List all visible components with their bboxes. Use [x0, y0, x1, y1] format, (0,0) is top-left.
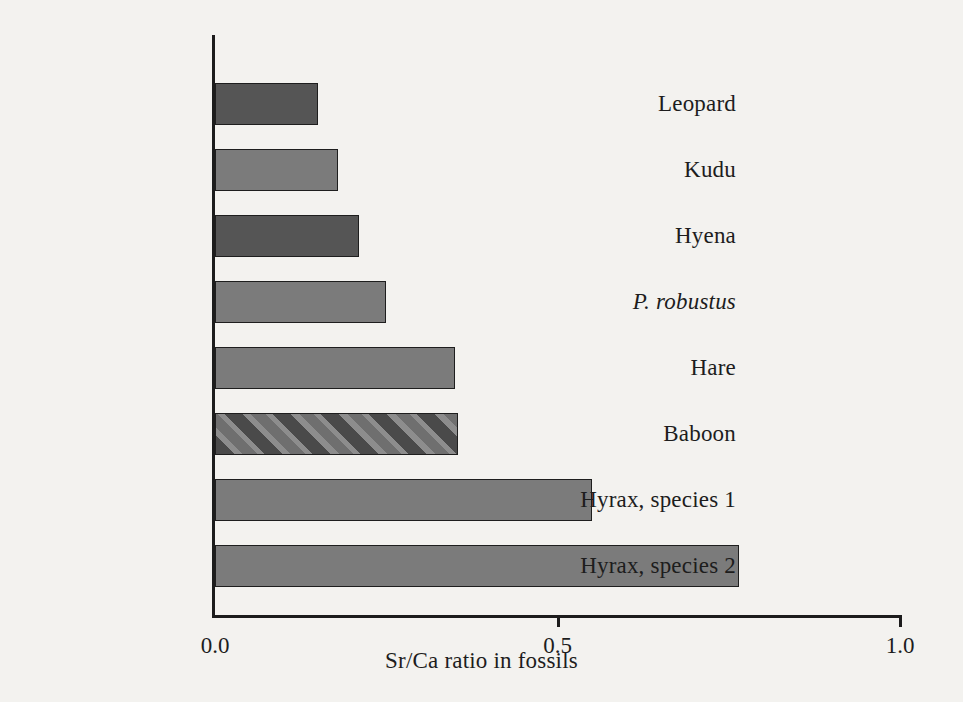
category-label: Hyrax, species 1 — [580, 479, 736, 521]
bar-hare — [215, 347, 455, 389]
bar-leopard — [215, 83, 318, 125]
category-label: Kudu — [684, 149, 736, 191]
plot-area: 0.00.51.0 — [215, 35, 900, 615]
x-axis-title: Sr/Ca ratio in fossils — [0, 648, 963, 674]
bar-kudu — [215, 149, 338, 191]
bar-hyrax-species-1 — [215, 479, 592, 521]
category-label: Hyrax, species 2 — [580, 545, 736, 587]
category-label: Hare — [691, 347, 737, 389]
x-tick-mark — [557, 615, 560, 627]
category-label: P. robustus — [633, 281, 736, 323]
bar-baboon — [215, 413, 458, 455]
bar-p-robustus — [215, 281, 386, 323]
category-label: Leopard — [658, 83, 736, 125]
chart-page: 0.00.51.0 LeopardKuduHyenaP. robustusHar… — [0, 0, 963, 702]
bar-hyena — [215, 215, 359, 257]
category-label: Baboon — [663, 413, 736, 455]
category-label: Hyena — [675, 215, 736, 257]
x-tick-mark — [899, 615, 902, 627]
